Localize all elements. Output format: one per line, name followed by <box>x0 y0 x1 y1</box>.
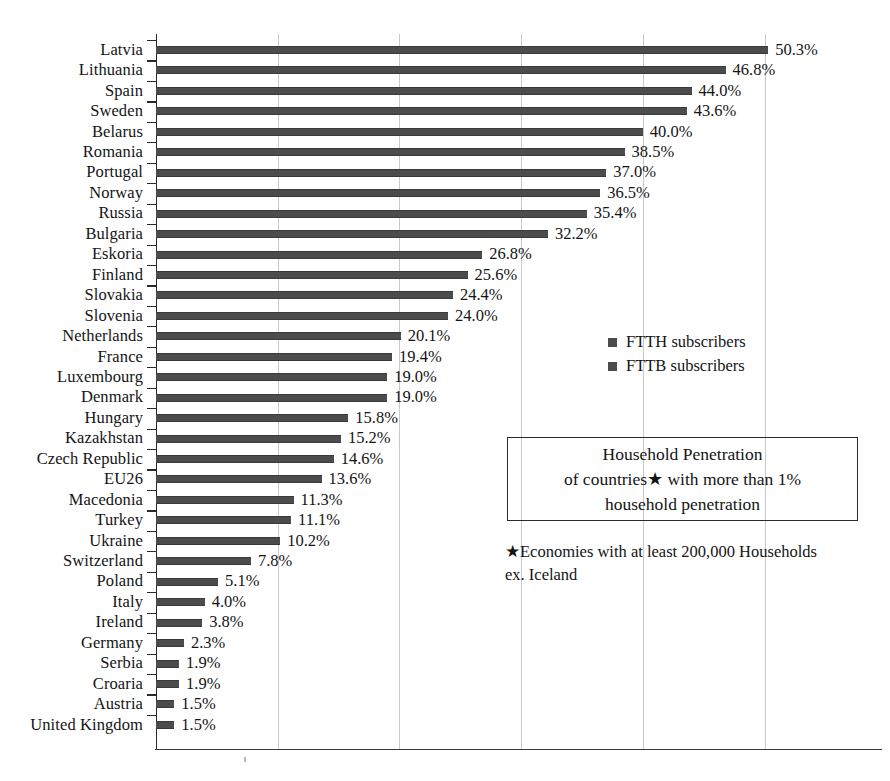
title-box: Household Penetrationof countries★ with … <box>507 437 858 521</box>
bar-value-label: 19.0% <box>394 369 437 386</box>
bar <box>156 291 453 299</box>
y-axis-tick <box>147 592 156 593</box>
category-label: Czech Republic <box>37 451 143 468</box>
y-axis-tick <box>147 101 156 102</box>
y-axis-tick <box>147 245 156 246</box>
bar-row: Finland25.6% <box>156 267 868 283</box>
bar-rows: Latvia50.3%Lithuania46.8%Spain44.0%Swede… <box>156 34 868 750</box>
bar-row: Sweden43.6% <box>156 103 868 119</box>
bar <box>156 496 294 504</box>
footnote-line: ex. Iceland <box>505 563 875 586</box>
category-label: Romania <box>83 144 143 161</box>
bar <box>156 312 448 320</box>
bar <box>156 394 387 402</box>
category-label: Latvia <box>100 42 143 59</box>
bar-value-label: 2.3% <box>191 635 225 652</box>
bar-value-label: 10.2% <box>287 533 330 550</box>
bar <box>156 373 387 381</box>
category-label: Poland <box>97 573 143 590</box>
bar <box>156 475 322 483</box>
category-label: Ukraine <box>89 533 143 550</box>
bar-value-label: 13.6% <box>329 471 372 488</box>
footnote: ★Economies with at least 200,000 Househo… <box>505 540 875 586</box>
bar-value-label: 24.0% <box>455 308 498 325</box>
category-label: Spain <box>105 83 143 100</box>
y-axis-tick <box>147 40 156 41</box>
chart-page: Latvia50.3%Lithuania46.8%Spain44.0%Swede… <box>0 0 890 781</box>
bar-value-label: 1.9% <box>186 655 220 672</box>
bar <box>156 414 348 422</box>
bar <box>156 189 600 197</box>
bar <box>156 435 341 443</box>
category-label: Serbia <box>100 655 143 672</box>
category-label: Hungary <box>85 410 143 427</box>
y-axis-tick <box>147 60 156 61</box>
y-axis-tick <box>147 654 156 655</box>
bar-value-label: 46.8% <box>733 62 776 79</box>
bar <box>156 107 687 115</box>
bar-value-label: 11.1% <box>298 512 340 529</box>
bar-value-label: 37.0% <box>613 164 656 181</box>
bar-value-label: 50.3% <box>775 42 818 59</box>
category-label: Lithuania <box>79 62 143 79</box>
y-axis-tick <box>147 306 156 307</box>
category-label: United Kingdom <box>30 717 143 734</box>
bar <box>156 46 768 54</box>
bar-value-label: 40.0% <box>650 124 693 141</box>
bar-value-label: 24.4% <box>460 287 503 304</box>
bar-value-label: 1.9% <box>186 676 220 693</box>
bar-row: Romania38.5% <box>156 144 868 160</box>
title-line: of countries★ with more than 1% <box>564 467 801 492</box>
bar <box>156 251 482 259</box>
y-axis-tick <box>147 551 156 552</box>
category-label: Russia <box>98 205 143 222</box>
category-label: Italy <box>112 594 143 611</box>
bar-row: Hungary15.8% <box>156 410 868 426</box>
bar-row: United Kingdom1.5% <box>156 717 868 733</box>
bar <box>156 169 606 177</box>
y-axis-tick <box>147 163 156 164</box>
category-label: Turkey <box>95 512 143 529</box>
y-axis-tick <box>147 183 156 184</box>
bar-row: Denmark19.0% <box>156 390 868 406</box>
bar <box>156 516 291 524</box>
y-axis-tick <box>147 490 156 491</box>
bar <box>156 680 179 688</box>
bar <box>156 700 174 708</box>
y-axis-tick <box>147 715 156 716</box>
category-label: Finland <box>92 267 143 284</box>
bar <box>156 230 548 238</box>
chart-legend: FTTH subscribersFTTB subscribers <box>608 330 746 378</box>
bar-row: Russia35.4% <box>156 206 868 222</box>
category-label: Bulgaria <box>85 226 143 243</box>
bar-value-label: 11.3% <box>301 492 343 509</box>
category-label: EU26 <box>104 471 143 488</box>
y-axis-tick <box>147 572 156 573</box>
bar <box>156 660 179 668</box>
bar-value-label: 5.1% <box>225 573 259 590</box>
y-axis-tick <box>147 367 156 368</box>
bar-row: Slovakia24.4% <box>156 287 868 303</box>
bar-value-label: 4.0% <box>212 594 246 611</box>
category-label: Portugal <box>86 164 143 181</box>
bar-value-label: 1.5% <box>181 696 215 713</box>
bar-value-label: 3.8% <box>209 614 243 631</box>
bar-row: Latvia50.3% <box>156 42 868 58</box>
bar-row: Eskoria26.8% <box>156 247 868 263</box>
category-label: France <box>98 349 144 366</box>
category-label: Ireland <box>96 614 143 631</box>
bar-row: Slovenia24.0% <box>156 308 868 324</box>
category-label: Luxembourg <box>57 369 143 386</box>
category-label: Norway <box>89 185 143 202</box>
bar <box>156 537 280 545</box>
bar-value-label: 20.1% <box>408 328 451 345</box>
bar-value-label: 38.5% <box>632 144 675 161</box>
legend-swatch-icon <box>608 362 617 371</box>
category-label: Slovenia <box>84 308 143 325</box>
bar-row: Luxembourg19.0% <box>156 369 868 385</box>
bar-value-label: 19.4% <box>399 349 442 366</box>
bar-row: Italy4.0% <box>156 594 868 610</box>
bar <box>156 353 392 361</box>
scan-artifact-mark <box>244 757 246 762</box>
bar <box>156 598 205 606</box>
